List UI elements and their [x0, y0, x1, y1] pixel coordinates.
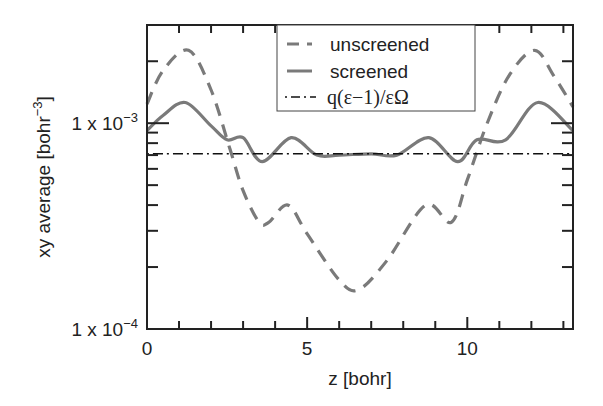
legend-label-unscreened: unscreened: [330, 34, 429, 55]
x-tick-label: 5: [302, 338, 313, 359]
legend-label-dashdot: q(ε−1)/εΩ: [327, 86, 409, 109]
y-axis-label-main: xy average [bohr: [33, 116, 54, 258]
y-axis-label: xy average [bohr−3]: [30, 96, 54, 258]
x-tick-label: 0: [142, 338, 153, 359]
legend: unscreened screened q(ε−1)/εΩ: [277, 25, 475, 111]
y-axis-label-close: ]: [33, 96, 54, 101]
legend-label-screened: screened: [330, 61, 408, 82]
y-tick-label: 1 x 10−4: [71, 316, 138, 340]
x-tick-label: 10: [457, 338, 478, 359]
y-axis-label-sup: −3: [30, 101, 45, 116]
y-tick-label: 1 x 10−3: [71, 110, 138, 134]
x-axis-label: z [bohr]: [328, 368, 391, 389]
chart: 05101 x 10−31 x 10−4 z [bohr] xy average…: [0, 0, 603, 406]
